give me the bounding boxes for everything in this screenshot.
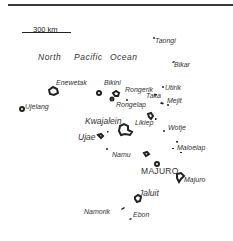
atoll-enewetak bbox=[49, 87, 58, 95]
island-maloelap bbox=[176, 141, 178, 143]
label-majuro-capital: MAJURO bbox=[141, 166, 179, 176]
label-taongi: Taongi bbox=[155, 37, 176, 44]
label-namorik: Namorik bbox=[84, 208, 110, 215]
label-kwajalein: Kwajalein bbox=[85, 116, 121, 126]
label-utirik: Utirik bbox=[165, 84, 181, 91]
label-ujelang: Ujelang bbox=[25, 103, 49, 110]
label-majuro: Majuro bbox=[184, 176, 205, 183]
label-enewetak: Enewetak bbox=[56, 79, 87, 86]
atoll-namu bbox=[144, 152, 149, 156]
label-rongelap: Rongelap bbox=[116, 101, 146, 108]
atoll-bikini bbox=[97, 91, 101, 95]
atoll-ujelang bbox=[20, 107, 24, 111]
island-ebon bbox=[129, 218, 132, 220]
label-bikini: Bikini bbox=[104, 79, 121, 86]
atoll-ujae bbox=[98, 134, 103, 138]
label-mejit: Mejit bbox=[167, 97, 182, 104]
label-jaluit: Jaluit bbox=[139, 188, 159, 198]
label-maloelap: Maloelap bbox=[177, 144, 205, 151]
label-taka: Taka bbox=[146, 92, 161, 99]
island-mejit bbox=[160, 102, 164, 105]
label-ebon: Ebon bbox=[133, 211, 149, 218]
label-namu: Namu bbox=[112, 151, 131, 158]
label-bikar: Bikar bbox=[174, 61, 190, 68]
island-wotje bbox=[163, 130, 165, 132]
atoll-rongelap bbox=[113, 91, 119, 96]
label-ujae: Ujae bbox=[78, 132, 95, 142]
label-wotje: Wotje bbox=[168, 124, 186, 131]
island-utirik bbox=[162, 86, 164, 88]
island-namorik bbox=[121, 207, 125, 210]
label-likiep: Likiep bbox=[135, 119, 153, 126]
